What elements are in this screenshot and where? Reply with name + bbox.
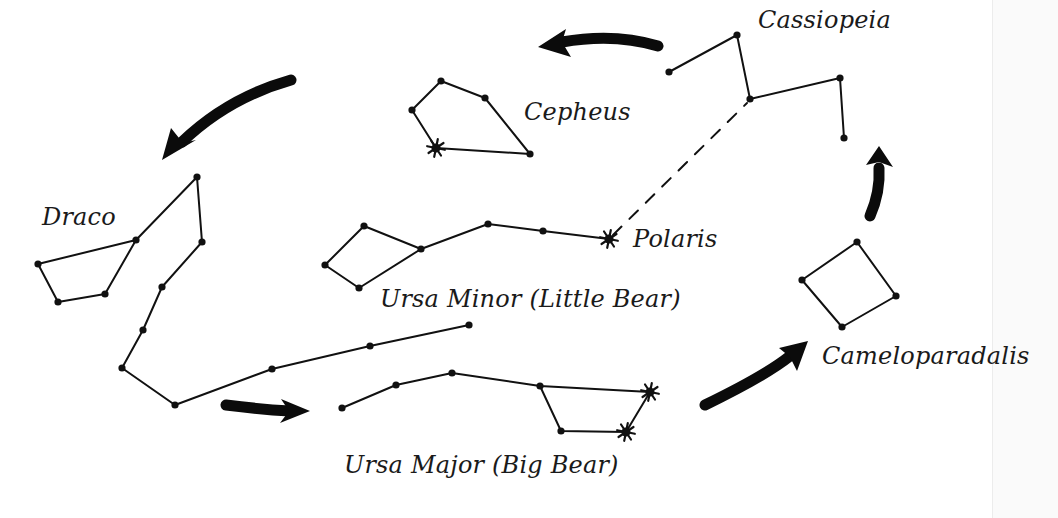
constellation-line	[421, 224, 609, 249]
star-dot-icon	[539, 227, 546, 234]
star-dot-icon	[840, 134, 847, 141]
star-dot-icon	[171, 401, 178, 408]
arrow-draco-to-ursa-major	[226, 399, 310, 423]
star-dot-icon	[417, 245, 424, 252]
star-dot-icon	[408, 106, 415, 113]
star-dot-icon	[158, 283, 165, 290]
arrow-cameleopardalis-to-cassiopeia	[866, 146, 893, 216]
star-dot-icon	[193, 173, 200, 180]
star-dot-icon	[484, 220, 491, 227]
star-dot-icon	[665, 68, 672, 75]
constellation-ursa-minor	[321, 220, 617, 291]
arrow-cassiopeia-to-cepheus	[538, 29, 658, 57]
constellation-cepheus	[408, 77, 533, 157]
star-dot-icon	[838, 323, 845, 330]
constellation-line	[412, 81, 530, 154]
label-cepheus: Cepheus	[524, 98, 631, 126]
label-ursa-minor: Ursa Minor (Little Bear)	[380, 285, 681, 313]
star-dot-icon	[118, 364, 125, 371]
label-ursa-major: Ursa Major (Big Bear)	[344, 451, 619, 479]
constellation-cameleopardalis	[798, 238, 899, 330]
star-dot-icon	[733, 31, 740, 38]
constellations	[34, 31, 899, 440]
star-dot-icon	[798, 276, 805, 283]
pointer-line-polaris-cassiopeia	[613, 103, 747, 235]
star-dot-icon	[198, 238, 205, 245]
star-dot-icon	[132, 236, 139, 243]
arrow-ursa-major-to-cameleopardalis	[705, 341, 808, 405]
constellation-line	[342, 373, 650, 432]
label-polaris: Polaris	[633, 225, 717, 253]
star-dot-icon	[34, 260, 41, 267]
star-dot-icon	[392, 381, 399, 388]
star-dot-icon	[101, 290, 108, 297]
label-draco: Draco	[42, 203, 116, 231]
star-dot-icon	[746, 95, 753, 102]
star-dot-icon	[481, 94, 488, 101]
constellation-line	[38, 240, 136, 302]
star-dot-icon	[465, 321, 472, 328]
star-dot-icon	[268, 365, 275, 372]
label-cameleopardalis: Cameloparadalis	[822, 342, 1030, 370]
constellation-line	[669, 35, 844, 138]
star-dot-icon	[836, 74, 843, 81]
star-dot-icon	[853, 238, 860, 245]
star-dot-icon	[892, 292, 899, 299]
star-dot-icon	[366, 342, 373, 349]
star-dot-icon	[355, 284, 362, 291]
constellation-ursa-major	[338, 369, 658, 440]
constellation-cassiopeia	[665, 31, 847, 141]
star-dot-icon	[536, 382, 543, 389]
arrow-cepheus-to-draco	[162, 80, 291, 160]
star-dot-icon	[139, 326, 146, 333]
star-dot-icon	[54, 298, 61, 305]
constellation-line	[325, 226, 421, 288]
star-dot-icon	[526, 150, 533, 157]
star-dot-icon	[321, 261, 328, 268]
star-dot-icon	[338, 404, 345, 411]
star-dot-icon	[448, 369, 455, 376]
star-dot-icon	[557, 427, 564, 434]
constellation-line	[802, 242, 896, 327]
star-dot-icon	[360, 222, 367, 229]
rotation-arrows	[162, 29, 893, 423]
star-dot-icon	[437, 77, 444, 84]
label-cassiopeia: Cassiopeia	[758, 6, 891, 34]
